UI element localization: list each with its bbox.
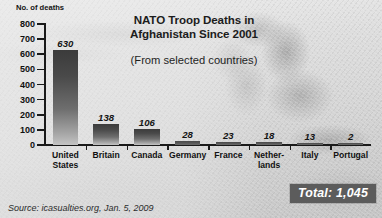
chart-figure: No. of deaths NATO Troop Deaths in Afgha… bbox=[0, 0, 382, 218]
chart-title-line-1: NATO Troop Deaths in bbox=[108, 13, 280, 27]
y-axis-tick bbox=[37, 144, 44, 146]
bar bbox=[216, 142, 242, 145]
bar-value-label: 2 bbox=[327, 131, 375, 142]
y-axis-tick bbox=[37, 84, 44, 86]
y-axis-title: No. of deaths bbox=[16, 3, 64, 12]
x-axis-category-label: France bbox=[208, 150, 249, 160]
y-axis-tick-label: 100 bbox=[0, 124, 35, 134]
bar bbox=[297, 143, 323, 145]
source-note: Source: icasualties.org, Jan. 5, 2009 bbox=[8, 203, 154, 213]
bar-value-label: 630 bbox=[41, 38, 89, 49]
chart-title: NATO Troop Deaths in Afghanistan Since 2… bbox=[108, 13, 280, 40]
y-axis-tick bbox=[37, 114, 44, 116]
bar bbox=[175, 141, 201, 145]
bar bbox=[93, 124, 119, 145]
bar bbox=[53, 50, 79, 145]
y-axis-tick-label: 300 bbox=[0, 94, 35, 104]
bar bbox=[256, 142, 282, 145]
y-axis-tick bbox=[37, 23, 44, 25]
x-axis-category-label: Nether- lands bbox=[249, 150, 290, 171]
y-axis-tick-label: 800 bbox=[0, 19, 35, 29]
bar bbox=[338, 143, 364, 145]
x-axis-category-label: Italy bbox=[290, 150, 331, 160]
x-axis-category-label: Portugal bbox=[330, 150, 371, 160]
y-axis-tick-label: 700 bbox=[0, 34, 35, 44]
y-axis-tick bbox=[37, 53, 44, 55]
x-axis-category-label: United States bbox=[45, 150, 86, 171]
x-axis-category-label: Canada bbox=[127, 150, 168, 160]
x-axis-category-label: Britain bbox=[86, 150, 127, 160]
y-axis-tick-label: 400 bbox=[0, 79, 35, 89]
y-axis-tick-label: 200 bbox=[0, 109, 35, 119]
y-axis-tick bbox=[37, 99, 44, 101]
y-axis-tick bbox=[37, 69, 44, 71]
x-axis-category-label: Germany bbox=[167, 150, 208, 160]
y-axis-tick-label: 600 bbox=[0, 49, 35, 59]
bar-value-label: 106 bbox=[123, 117, 171, 128]
y-axis-tick bbox=[37, 129, 44, 131]
y-axis-tick-label: 500 bbox=[0, 64, 35, 74]
y-axis-tick-label: 0 bbox=[0, 140, 35, 150]
bar bbox=[134, 129, 160, 145]
chart-title-line-2: Afghanistan Since 2001 bbox=[108, 27, 280, 41]
total-badge: Total: 1,045 bbox=[290, 184, 376, 203]
chart-subtitle: (From selected countries) bbox=[108, 54, 280, 67]
